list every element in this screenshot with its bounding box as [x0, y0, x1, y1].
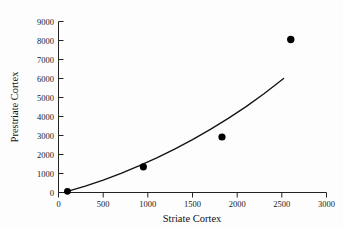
x-tick-label-500: 500: [97, 199, 110, 209]
x-tick-label-1500: 1500: [184, 199, 201, 209]
y-tick-label-0: 0: [50, 188, 54, 198]
x-tick-label-0: 0: [56, 199, 60, 209]
data-point-2: [140, 163, 147, 170]
y-tick-label-8000: 8000: [37, 36, 54, 46]
y-tick-label-2000: 2000: [37, 150, 54, 160]
y-tick-label-9000: 9000: [37, 17, 54, 27]
x-tick-label-3000: 3000: [318, 199, 335, 209]
y-tick-label-3000: 3000: [37, 131, 54, 141]
data-point-1: [64, 188, 71, 195]
y-tick-label-6000: 6000: [37, 74, 54, 84]
x-tick-label-1000: 1000: [139, 199, 156, 209]
y-tick-label-7000: 7000: [37, 55, 54, 65]
scatter-plot-svg: 0 1000 2000 3000 4000 5000 6000 7000 800…: [0, 0, 343, 229]
x-tick-label-2500: 2500: [273, 199, 290, 209]
data-point-3: [218, 133, 225, 140]
y-axis-title: Prestriate Cortex: [9, 71, 20, 143]
x-axis-title: Striate Cortex: [163, 213, 222, 224]
data-point-4: [287, 36, 294, 43]
y-tick-label-5000: 5000: [37, 93, 54, 103]
chart-figure: 0 1000 2000 3000 4000 5000 6000 7000 800…: [0, 0, 343, 229]
y-tick-label-4000: 4000: [37, 112, 54, 122]
y-tick-label-1000: 1000: [37, 169, 54, 179]
x-tick-label-2000: 2000: [229, 199, 246, 209]
